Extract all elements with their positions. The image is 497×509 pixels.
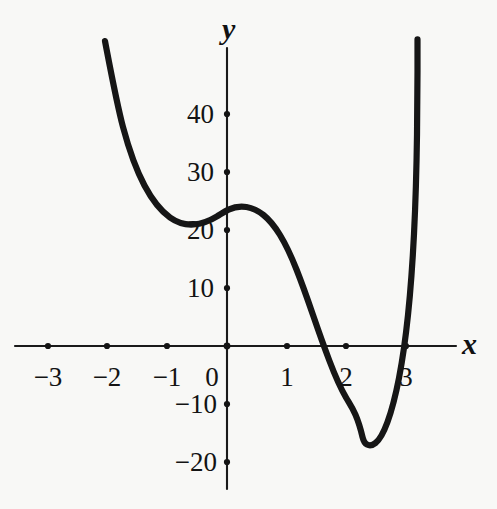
y-tick-dot-10 xyxy=(224,285,230,291)
x-tick-label-0: 0 xyxy=(205,364,219,391)
x-tick-label-3: 3 xyxy=(399,364,413,391)
x-tick-label-2: 2 xyxy=(339,364,353,391)
x-tick-dot-neg3 xyxy=(45,343,51,349)
y-tick-label-10: 10 xyxy=(187,275,214,302)
x-tick-label-neg3: −3 xyxy=(34,364,63,391)
x-tick-dot-1 xyxy=(284,343,290,349)
y-tick-dot-neg10 xyxy=(224,401,230,407)
x-tick-label-neg2: −2 xyxy=(93,364,122,391)
y-tick-label-neg10: −10 xyxy=(175,391,217,418)
y-tick-dot-neg20 xyxy=(224,459,230,465)
y-tick-label-20: 20 xyxy=(187,217,214,244)
y-tick-label-40: 40 xyxy=(187,101,214,128)
y-tick-dot-20 xyxy=(224,227,230,233)
x-tick-label-1: 1 xyxy=(280,364,294,391)
x-tick-dot-neg2 xyxy=(104,343,110,349)
y-tick-dot-30 xyxy=(224,169,230,175)
x-tick-dot-2 xyxy=(343,343,349,349)
x-tick-dot-neg1 xyxy=(164,343,170,349)
y-tick-dot-40 xyxy=(224,111,230,117)
x-tick-dot-origin xyxy=(224,343,231,350)
graph-figure: −3 −2 −1 0 1 2 3 40 30 20 10 −10 −20 y x xyxy=(0,0,497,509)
y-axis-label: y xyxy=(222,14,235,44)
y-tick-label-30: 30 xyxy=(187,159,214,186)
x-tick-label-neg1: −1 xyxy=(153,364,182,391)
y-tick-label-neg20: −20 xyxy=(175,449,217,476)
plot-canvas xyxy=(0,0,497,509)
x-axis-label: x xyxy=(462,329,477,359)
